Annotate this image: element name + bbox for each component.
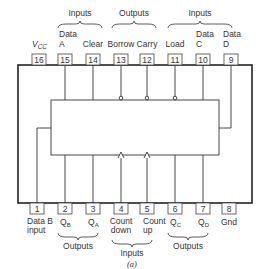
bottom-wires	[37, 128, 203, 203]
pin-label-data-a-line1: Data	[59, 29, 77, 39]
brace-top-inputs-right	[168, 21, 232, 28]
pin-number-14: 14	[88, 55, 98, 65]
pin-number-8: 8	[227, 204, 232, 214]
pin-number-11: 11	[171, 55, 180, 65]
pin-label-qb: QB	[60, 217, 71, 228]
pin-number-6: 6	[173, 204, 178, 214]
ic-pinout-diagram: 16 15 14 13 12 11 10 9 VCC Data A Clear …	[0, 0, 260, 269]
top-group-labels: Inputs Outputs Inputs	[68, 8, 211, 18]
pin-label-clear: Clear	[83, 39, 103, 49]
figure-caption: (a)	[127, 259, 137, 269]
pin-label-borrow: Borrow	[108, 39, 136, 49]
group-label-bottom-inputs: Inputs	[120, 248, 143, 258]
top-pin-numbers: 16 15 14 13 12 11 10 9	[34, 55, 233, 65]
top-group-braces	[58, 21, 232, 28]
bubble-pin-13	[119, 96, 123, 100]
pin-label-count-up-line2: up	[143, 225, 153, 235]
pin-label-data-c-line2: C	[196, 39, 202, 49]
pin-label-qc: QC	[170, 217, 182, 228]
pin-label-load: Load	[166, 39, 185, 49]
group-label-bottom-outputs-right: Outputs	[173, 241, 203, 251]
pin-label-data-d-line1: Data	[223, 29, 241, 39]
pin-number-10: 10	[198, 55, 208, 65]
bottom-pin-numbers: 1 2 3 4 5 6 7 8	[35, 204, 232, 214]
pin-label-data-b-line2: input	[27, 225, 46, 235]
brace-bottom-outputs-right	[168, 233, 208, 240]
pin-label-data-a-line2: A	[59, 39, 65, 49]
brace-top-outputs	[112, 21, 156, 28]
pin-label-qd: QD	[198, 217, 210, 228]
pin-number-1: 1	[35, 204, 40, 214]
pin-label-vcc: VCC	[32, 39, 47, 50]
group-label-bottom-outputs-left: Outputs	[63, 241, 93, 251]
pin-number-3: 3	[91, 204, 96, 214]
brace-top-inputs-left	[58, 21, 102, 28]
pin-number-13: 13	[116, 55, 126, 65]
pin-number-15: 15	[60, 55, 70, 65]
brace-bottom-outputs-left	[58, 233, 98, 240]
pin-number-12: 12	[142, 55, 152, 65]
ic-package-outline	[18, 65, 252, 203]
pin-number-16: 16	[34, 55, 44, 65]
group-label-top-outputs: Outputs	[119, 8, 149, 18]
pin-number-4: 4	[119, 204, 124, 214]
pin-number-7: 7	[201, 204, 206, 214]
pin-number-2: 2	[63, 204, 68, 214]
top-pin-labels: VCC Data A Clear Borrow Carry Load Data …	[32, 29, 241, 50]
bubble-pin-12	[145, 96, 149, 100]
pin-label-qa: QA	[88, 217, 99, 228]
pin-label-data-d-line2: D	[223, 39, 229, 49]
pin-label-gnd: Gnd	[221, 217, 237, 227]
pin-number-9: 9	[229, 55, 234, 65]
pin-label-count-down-line2: down	[111, 225, 132, 235]
group-label-top-inputs-left: Inputs	[68, 8, 91, 18]
bottom-pin-labels: Data B input QB QA Count down Count up Q…	[27, 216, 237, 235]
counter-logic-block	[51, 100, 219, 155]
bottom-group-labels: Outputs Inputs Outputs	[63, 241, 203, 258]
pin-label-carry: Carry	[137, 39, 159, 49]
pin-label-data-c-line1: Data	[196, 29, 214, 39]
bubble-pin-11	[173, 96, 177, 100]
group-label-top-inputs-right: Inputs	[188, 8, 211, 18]
inversion-bubbles	[119, 96, 177, 100]
brace-bottom-inputs	[112, 240, 152, 247]
pin-number-5: 5	[145, 204, 150, 214]
